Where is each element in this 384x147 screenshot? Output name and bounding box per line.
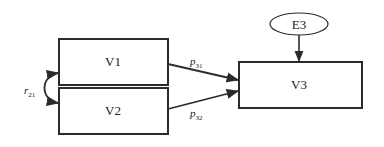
edge-v2-v3 bbox=[168, 91, 238, 109]
node-e3: E3 bbox=[270, 13, 328, 35]
edge-p32-label: p32 bbox=[189, 107, 203, 122]
node-v2-label: V2 bbox=[105, 103, 121, 118]
node-v3: V3 bbox=[239, 62, 362, 108]
edge-r21-curve bbox=[45, 73, 59, 103]
edge-v1-v3 bbox=[168, 64, 238, 80]
node-v2: V2 bbox=[59, 88, 168, 134]
edge-p31-label: p31 bbox=[189, 55, 203, 70]
node-v1: V1 bbox=[59, 39, 168, 85]
path-diagram: V1 V2 V3 E3 p31 p32 r21 bbox=[0, 0, 384, 147]
node-e3-label: E3 bbox=[292, 17, 306, 32]
node-v1-label: V1 bbox=[105, 54, 121, 69]
node-v3-label: V3 bbox=[291, 77, 307, 92]
edge-r21-label: r21 bbox=[24, 84, 36, 99]
